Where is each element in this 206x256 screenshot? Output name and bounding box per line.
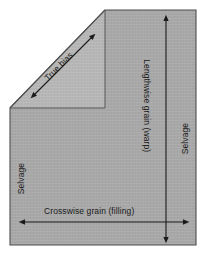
crosswise-grain-label: Crosswise grain (filling) bbox=[44, 207, 134, 216]
diagram-canvas bbox=[0, 0, 206, 256]
fabric-grain-diagram: True bias Lengthwise grain (warp) Selvag… bbox=[0, 0, 206, 256]
selvage-right-label: Selvage bbox=[181, 123, 190, 154]
lengthwise-grain-label: Lengthwise grain (warp) bbox=[143, 59, 152, 152]
selvage-left-label: Selvage bbox=[17, 163, 26, 194]
